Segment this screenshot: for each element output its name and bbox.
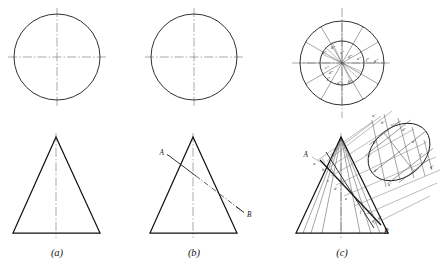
engineering-drawing-canvas: (a) A B (b): [0, 0, 445, 268]
front-view-point-labels: a b c d e f g: [313, 161, 375, 223]
panel-c-top-view: a" b" c" d" e" f" g" j" a" b" c" d": [292, 8, 392, 118]
tv-label-d: d": [348, 54, 352, 59]
tv-label-j: j": [326, 76, 330, 81]
panel-a-front-view: [13, 133, 100, 238]
aux-label-c2: c': [368, 153, 372, 158]
front-view-cone-triangle: [13, 137, 100, 233]
tv-label-c: c": [340, 50, 344, 55]
line-ab-front-view: [320, 160, 381, 225]
aux-label-g: g': [430, 164, 434, 169]
tv-label-a2: a": [337, 80, 341, 85]
aux-label-a: a': [372, 113, 376, 118]
tv-label-d2: d": [329, 70, 333, 75]
tv-label-b2: b": [348, 79, 352, 84]
point-label-a: A: [159, 149, 165, 157]
aux-label-d: d': [402, 127, 406, 132]
tv-label-g: g": [374, 58, 378, 63]
panel-c: a" b" c" d" e" f" g" j" a" b" c" d": [292, 8, 441, 259]
panel-a-top-view: [8, 8, 106, 106]
panel-caption-c: (c): [336, 247, 348, 259]
tv-label-f: f": [366, 57, 369, 62]
panel-caption-b: (b): [188, 247, 201, 259]
tv-label-a: a": [322, 50, 326, 55]
line-ab-end-segment: [236, 207, 244, 213]
fv-label-a: a: [313, 161, 316, 166]
panel-b: A B (b): [145, 8, 252, 259]
panel-a: (a): [8, 8, 106, 259]
fv-label-c: c: [327, 178, 329, 183]
fv-label-d: d: [334, 186, 337, 191]
aux-label-e2: e': [388, 182, 392, 187]
point-label-b: B: [384, 228, 389, 236]
aux-label-b: b': [381, 120, 385, 125]
point-label-a: A: [303, 151, 309, 159]
figure-root: (a) A B (b): [0, 0, 445, 268]
point-label-b: B: [247, 211, 252, 219]
fv-label-f: f: [360, 209, 362, 214]
fv-label-e: e: [345, 196, 347, 201]
tv-label-b: b": [331, 45, 335, 50]
panel-caption-a: (a): [51, 247, 64, 259]
panel-b-top-view: [145, 8, 243, 106]
panel-b-front-view: [150, 133, 244, 238]
tv-label-e: e": [357, 56, 361, 61]
leader-tick-a: [167, 155, 170, 157]
